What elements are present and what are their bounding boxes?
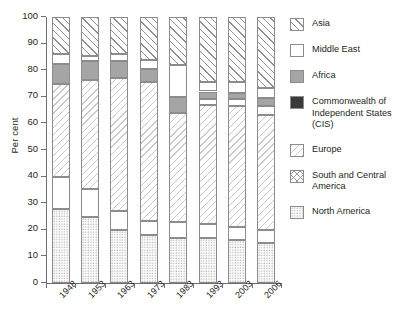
legend-swatch-north-america-icon (290, 206, 304, 219)
y-tick-label-0: 0 (33, 276, 38, 288)
legend-item-cis[interactable]: Commonwealth of Independent States (CIS) (290, 96, 402, 131)
legend-label-europe: Europe (312, 144, 342, 156)
segment-asia-1973 (140, 17, 158, 60)
segment-middle-east-1973 (140, 60, 158, 69)
segment-north-america-1993 (199, 238, 217, 283)
legend-item-europe[interactable]: Europe (290, 144, 402, 157)
legend-label-asia: Asia (312, 18, 330, 30)
segment-africa-1953 (81, 61, 99, 80)
legend-label-north-america: North America (312, 206, 370, 218)
y-tick-label-40: 40 (27, 169, 38, 181)
legend-swatch-europe-icon (290, 144, 304, 157)
segment-middle-east-1953 (81, 56, 99, 61)
y-tick-50: 50 (41, 149, 46, 150)
segment-north-america-2006 (257, 243, 275, 283)
segment-asia-1948 (52, 17, 70, 54)
x-tick-1963 (105, 283, 106, 288)
segment-middle-east-1983 (169, 65, 187, 97)
segment-asia-2003 (228, 17, 246, 82)
y-tick-40: 40 (41, 176, 46, 177)
y-axis-line (46, 17, 47, 283)
segment-europe-1983 (169, 113, 187, 222)
segment-north-america-1953 (81, 217, 99, 284)
y-axis-title: Per cent (9, 96, 20, 176)
bar-1983 (169, 17, 187, 283)
stacked-bar-chart-figure: Per cent 0102030405060708090100 19481953… (0, 0, 404, 323)
segment-north-america-1963 (110, 230, 128, 283)
bar-1963 (110, 17, 128, 283)
x-tick-1973 (134, 283, 135, 288)
legend-item-asia[interactable]: Asia (290, 18, 402, 31)
legend-swatch-middle-east-icon (290, 44, 304, 57)
segment-south-and-central-america-1993 (199, 224, 217, 237)
segment-europe-1953 (81, 80, 99, 189)
legend-swatch-asia-icon (290, 18, 304, 31)
x-tick-end (281, 283, 282, 288)
segment-europe-1993 (199, 105, 217, 225)
segment-middle-east-1948 (52, 54, 70, 63)
bar-1953 (81, 17, 99, 283)
y-tick-label-70: 70 (27, 89, 38, 101)
segment-south-and-central-america-2006 (257, 230, 275, 243)
x-tick-1948 (46, 283, 47, 288)
segment-asia-1983 (169, 17, 187, 65)
segment-commonwealth-of-independent-states-2006 (257, 106, 275, 115)
segment-africa-1963 (110, 61, 128, 78)
segment-asia-1953 (81, 17, 99, 56)
segment-middle-east-2003 (228, 82, 246, 93)
segment-middle-east-1963 (110, 54, 128, 61)
segment-south-and-central-america-1983 (169, 222, 187, 238)
segment-asia-1993 (199, 17, 217, 82)
segment-south-and-central-america-1948 (52, 177, 70, 209)
y-tick-label-10: 10 (27, 249, 38, 261)
segment-north-america-1973 (140, 235, 158, 283)
x-tick-2003 (222, 283, 223, 288)
y-tick-label-20: 20 (27, 222, 38, 234)
segment-europe-2006 (257, 115, 275, 229)
bar-1948 (52, 17, 70, 283)
legend-swatch-africa-icon (290, 70, 304, 83)
y-tick-label-90: 90 (27, 36, 38, 48)
x-tick-1983 (164, 283, 165, 288)
x-tick-2006 (252, 283, 253, 288)
segment-africa-1948 (52, 64, 70, 84)
segment-commonwealth-of-independent-states-2003 (228, 99, 246, 106)
y-tick-100: 100 (41, 16, 46, 17)
y-tick-label-80: 80 (27, 63, 38, 75)
segment-europe-1948 (52, 84, 70, 177)
segment-africa-2003 (228, 93, 246, 100)
y-tick-10: 10 (41, 255, 46, 256)
bar-1993 (199, 17, 217, 283)
segment-africa-1993 (199, 92, 217, 100)
legend-swatch-cis-icon (290, 96, 304, 109)
segment-south-and-central-america-1953 (81, 189, 99, 217)
legend-item-africa[interactable]: Africa (290, 70, 402, 83)
legend-label-cis: Commonwealth of Independent States (CIS) (312, 96, 402, 131)
segment-africa-1983 (169, 97, 187, 113)
y-tick-20: 20 (41, 229, 46, 230)
segment-middle-east-2006 (257, 88, 275, 99)
legend-swatch-south-central-america-icon (290, 170, 304, 183)
legend-label-africa: Africa (312, 70, 336, 82)
y-tick-label-50: 50 (27, 143, 38, 155)
legend-label-middle-east: Middle East (312, 44, 360, 56)
segment-europe-1963 (110, 78, 128, 211)
chart-legend: AsiaMiddle EastAfricaCommonwealth of Ind… (290, 18, 402, 232)
x-tick-1953 (75, 283, 76, 288)
bar-2003 (228, 17, 246, 283)
x-tick-1993 (193, 283, 194, 288)
segment-asia-1963 (110, 17, 128, 54)
y-tick-90: 90 (41, 43, 46, 44)
segment-africa-2006 (257, 98, 275, 106)
bar-1973 (140, 17, 158, 283)
legend-item-north-america[interactable]: North America (290, 206, 402, 219)
segment-africa-1973 (140, 69, 158, 82)
segment-south-and-central-america-1963 (110, 211, 128, 230)
segment-south-and-central-america-2003 (228, 227, 246, 240)
y-tick-30: 30 (41, 202, 46, 203)
segment-commonwealth-of-independent-states-1993 (199, 99, 217, 104)
segment-north-america-1983 (169, 238, 187, 283)
legend-item-south-central-america[interactable]: South and Central America (290, 170, 402, 193)
legend-item-middle-east[interactable]: Middle East (290, 44, 402, 57)
y-tick-70: 70 (41, 96, 46, 97)
